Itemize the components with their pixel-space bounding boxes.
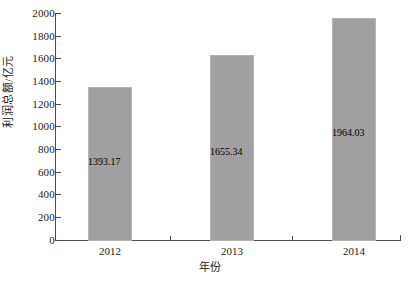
y-tick-label: 2000 [9,8,55,19]
bar-value-label-2013: 1655.34 [210,147,243,157]
y-tick-label: 400 [9,189,55,200]
y-tick-label: 600 [9,167,55,178]
y-tick-label: 1200 [9,99,55,110]
y-tick-mark [56,194,61,195]
y-tick-label: 1600 [9,53,55,64]
y-tick-mark [56,58,61,59]
bar-value-label-2014: 1964.03 [332,128,365,138]
y-tick-mark [56,36,61,37]
y-tick-mark [56,104,61,105]
y-axis-line [55,13,56,241]
y-tick-mark [56,13,61,14]
y-tick-mark [56,240,61,241]
y-tick-mark [56,217,61,218]
x-tick-label-2013: 2013 [197,246,267,257]
y-tick-label: 0 [9,235,55,246]
x-tick-mark [292,236,293,241]
x-tick-label-2012: 2012 [75,246,145,257]
y-tick-mark [56,172,61,173]
y-axis-title: 利润总额/亿元 [3,42,14,142]
y-tick-mark [56,126,61,127]
y-tick-label: 200 [9,212,55,223]
y-tick-label: 800 [9,144,55,155]
y-tick-mark [56,149,61,150]
x-axis-end-cap [400,235,401,241]
y-tick-label: 1800 [9,31,55,42]
x-axis-title: 年份 [0,262,419,273]
bar-chart: 0 200 400 600 800 1000 1200 1400 1600 18… [0,0,419,281]
x-tick-mark [170,236,171,241]
x-tick-label-2014: 2014 [319,246,389,257]
y-tick-label: 1400 [9,76,55,87]
y-tick-mark [56,81,61,82]
bar-value-label-2012: 1393.17 [88,157,121,167]
y-tick-label: 1000 [9,121,55,132]
